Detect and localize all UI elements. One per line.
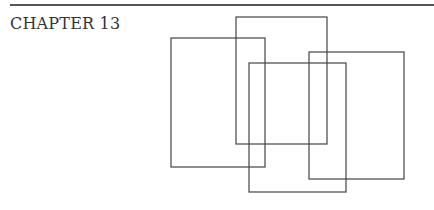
rectangle-4: [309, 52, 404, 179]
rectangle-3: [249, 63, 346, 192]
overlapping-rectangles-figure: [0, 0, 434, 210]
rectangle-1: [171, 38, 265, 167]
rectangle-2: [236, 17, 327, 144]
